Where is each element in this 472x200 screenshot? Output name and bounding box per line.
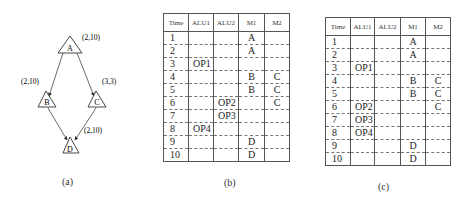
table-row: 9D: [164, 136, 290, 149]
edge-a-b: [49, 53, 63, 96]
table-row: 5BC: [326, 88, 451, 101]
cell-alu2: OP3: [214, 110, 239, 123]
cell-m2: C: [426, 75, 451, 88]
cell-time: 8: [326, 127, 351, 140]
cell-m1: A: [401, 36, 426, 49]
cell-time: 3: [326, 62, 351, 75]
cell-m1: B: [401, 88, 426, 101]
cell-alu1: [351, 36, 375, 49]
cell-alu1: OP2: [351, 101, 375, 114]
cell-alu2: [375, 88, 401, 101]
table-row: 9D: [326, 140, 451, 153]
node-d: D (2,10): [63, 126, 103, 154]
cell-m1: [239, 58, 265, 71]
table-row: 1A: [326, 36, 451, 49]
cell-m2: [426, 114, 451, 127]
header-time: Time: [326, 18, 351, 36]
cell-alu2: [375, 153, 401, 166]
cell-time: 6: [326, 101, 351, 114]
table-row: 5BC: [164, 84, 290, 97]
cell-m1: [401, 127, 426, 140]
node-label: C: [94, 98, 99, 107]
schedule-table-b: Time ALU1 ALU2 M1 M2 1A 2A 3OP1 4BC 5BC …: [163, 13, 290, 162]
header-m2: M2: [426, 18, 451, 36]
cell-time: 4: [326, 75, 351, 88]
cell-time: 7: [164, 110, 189, 123]
cell-m1: [239, 110, 265, 123]
cell-m1: [239, 123, 265, 136]
table-row: 3OP1: [164, 58, 290, 71]
cell-alu2: [214, 84, 239, 97]
cell-time: 6: [164, 97, 189, 110]
cell-alu1: [189, 32, 214, 45]
table-row: 8OP4: [164, 123, 290, 136]
cell-alu2: [214, 58, 239, 71]
cell-m1: [401, 101, 426, 114]
caption-b: (b): [224, 177, 236, 188]
cell-m1: B: [239, 71, 265, 84]
node-annotation: (2,10): [82, 33, 101, 42]
cell-m2: [426, 127, 451, 140]
cell-alu2: [214, 123, 239, 136]
cell-alu1: [189, 84, 214, 97]
table-row: 2A: [164, 45, 290, 58]
cell-m1: [401, 62, 426, 75]
cell-alu1: OP1: [351, 62, 375, 75]
table-row: 1A: [164, 32, 290, 45]
cell-time: 9: [326, 140, 351, 153]
cell-m2: [265, 123, 290, 136]
node-label: A: [67, 44, 73, 53]
cell-m2: [265, 32, 290, 45]
cell-m1: A: [239, 32, 265, 45]
cell-alu1: [351, 49, 375, 62]
node-annotation: (3,3): [102, 77, 117, 86]
schedule-table-c: Time ALU1 ALU2 M1 M2 1A 2A 3OP1 4BC 5BC …: [325, 17, 451, 166]
cell-m2: C: [426, 88, 451, 101]
cell-m2: [426, 49, 451, 62]
cell-alu2: [375, 36, 401, 49]
cell-m1: D: [239, 136, 265, 149]
cell-time: 10: [326, 153, 351, 166]
table-row: 7OP3: [326, 114, 451, 127]
cell-time: 3: [164, 58, 189, 71]
cell-alu1: [351, 75, 375, 88]
table-row: 6OP2C: [326, 101, 451, 114]
header-m2: M2: [265, 14, 290, 32]
edge-c-d: [75, 108, 96, 140]
cell-time: 10: [164, 149, 189, 162]
cell-time: 1: [326, 36, 351, 49]
table-row: 2A: [326, 49, 451, 62]
cell-m2: [426, 36, 451, 49]
caption-c: (c): [378, 181, 389, 192]
header-alu1: ALU1: [351, 18, 375, 36]
cell-m2: [265, 58, 290, 71]
cell-alu2: [214, 136, 239, 149]
cell-alu2: [214, 32, 239, 45]
cell-alu1: [189, 136, 214, 149]
table-row: 3OP1: [326, 62, 451, 75]
cell-alu2: [214, 71, 239, 84]
header-m1: M1: [239, 14, 265, 32]
cell-alu1: [189, 71, 214, 84]
cell-m1: B: [401, 75, 426, 88]
cell-m1: A: [401, 49, 426, 62]
cell-alu2: [375, 49, 401, 62]
cell-m1: [401, 114, 426, 127]
cell-time: 9: [164, 136, 189, 149]
cell-time: 8: [164, 123, 189, 136]
header-alu1: ALU1: [189, 14, 214, 32]
header-alu2: ALU2: [214, 14, 239, 32]
cell-time: 5: [326, 88, 351, 101]
cell-alu1: OP1: [189, 58, 214, 71]
node-a: A (2,10): [58, 33, 101, 53]
cell-m2: [265, 136, 290, 149]
cell-m2: [265, 45, 290, 58]
cell-alu1: OP4: [351, 127, 375, 140]
cell-alu1: [189, 45, 214, 58]
node-annotation: (2,10): [84, 126, 103, 135]
node-b: B (2,10): [21, 77, 56, 107]
cell-time: 2: [326, 49, 351, 62]
cell-alu2: [375, 75, 401, 88]
cell-alu1: [189, 110, 214, 123]
cell-m2: [426, 153, 451, 166]
